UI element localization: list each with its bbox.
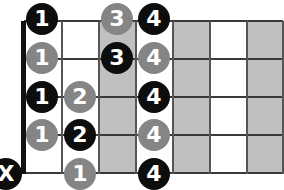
note-dot: 4	[138, 42, 170, 74]
fretboard-diagram: 1 3 4 1 3 4 1 2 4 1 2 4 X 1 4	[0, 0, 284, 190]
muted-string-x: X	[0, 158, 22, 190]
note-dot: 2	[64, 119, 96, 151]
note-dot: 2	[64, 81, 96, 113]
fret-line-2	[98, 21, 100, 174]
fret-line-6	[246, 21, 248, 174]
note-dot: 3	[101, 3, 133, 35]
fret-line-5	[209, 21, 211, 174]
fret-line-3	[135, 21, 137, 174]
note-dot: 4	[138, 3, 170, 35]
note-dot: 4	[138, 119, 170, 151]
fret-line-7	[282, 21, 284, 174]
fret-line-4	[172, 21, 174, 174]
note-dot: 1	[26, 42, 58, 74]
note-dot: 1	[64, 158, 96, 190]
note-dot: 1	[26, 81, 58, 113]
note-dot: 4	[138, 158, 170, 190]
note-dot: 1	[26, 119, 58, 151]
note-dot: 4	[138, 81, 170, 113]
note-dot: 3	[101, 42, 133, 74]
fret-line-1	[61, 21, 63, 174]
note-dot: 1	[26, 3, 58, 35]
